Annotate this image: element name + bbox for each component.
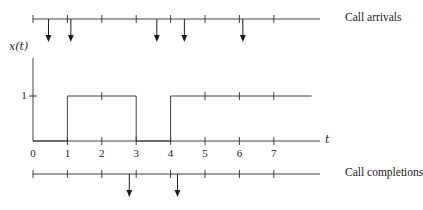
x-axis-tick-label-4: 4 [165,148,177,159]
signal-axis-label: x(t) [9,41,28,52]
y-axis-tick-label-1: 1 [19,90,29,101]
call-completions-arrow-head-1 [175,190,181,197]
signal-waveform [33,96,312,141]
call-arrivals-arrow-head-1 [68,35,74,42]
time-axis-label: t [325,134,329,145]
call-arrivals-arrow-head-4 [240,35,246,42]
call-completions-arrow-head-0 [126,190,132,197]
call-arrivals-timeline [33,15,320,42]
x-axis-tick-label-3: 3 [130,148,142,159]
x-axis-tick-label-2: 2 [96,148,108,159]
call-completions-label: Call completions [345,167,423,179]
x-axis-tick-label-7: 7 [268,148,280,159]
call-completions-timeline [33,170,320,197]
call-completions-event-arrows [126,174,180,197]
x-axis-tick-label-5: 5 [199,148,211,159]
call-arrivals-label: Call arrivals [345,12,402,24]
call-arrivals-event-arrows [46,19,246,42]
x-axis-tick-label-0: 0 [27,148,39,159]
x-axis-tick-label-6: 6 [233,148,245,159]
signal-plot [29,58,320,145]
call-arrivals-arrow-head-2 [154,35,160,42]
x-axis-tick-label-1: 1 [61,148,73,159]
call-arrivals-arrow-head-0 [46,35,52,42]
call-arrivals-arrow-head-3 [181,35,187,42]
